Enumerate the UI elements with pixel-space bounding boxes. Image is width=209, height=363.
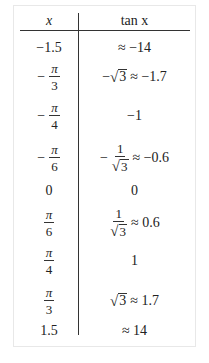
row-5-x: π6 bbox=[20, 203, 78, 243]
row-4-tan: 0 bbox=[79, 181, 190, 201]
row-6-x: π4 bbox=[20, 244, 78, 278]
row-2-x: − π4 bbox=[20, 99, 78, 133]
header-x: x bbox=[20, 12, 78, 30]
row-6-tan: 1 bbox=[79, 244, 190, 278]
row-1-tan: − √3 ≈ −1.7 bbox=[79, 60, 190, 94]
row-0-x: −1.5 bbox=[20, 38, 78, 58]
fraction: π4 bbox=[44, 246, 55, 276]
header-rule bbox=[20, 30, 190, 31]
row-7-tan: √3 ≈ 1.7 bbox=[79, 284, 190, 318]
row-3-tan: − 1√3 ≈ −0.6 bbox=[79, 138, 190, 178]
row-8-x: 1.5 bbox=[20, 321, 78, 341]
row-2-tan: −1 bbox=[79, 99, 190, 133]
fraction: π6 bbox=[44, 208, 55, 238]
fraction: π3 bbox=[44, 286, 55, 316]
row-1-x: − π3 bbox=[20, 60, 78, 94]
row-4-x: 0 bbox=[20, 181, 78, 201]
row-8-tan: ≈ 14 bbox=[79, 321, 190, 341]
row-7-x: π3 bbox=[20, 284, 78, 318]
fraction: π4 bbox=[49, 101, 60, 131]
fraction: 1√3 bbox=[110, 207, 127, 239]
row-5-tan: 1√3 ≈ 0.6 bbox=[79, 203, 190, 243]
fraction: π6 bbox=[49, 143, 60, 173]
row-0-tan: ≈ −14 bbox=[79, 38, 190, 58]
sqrt: √3 bbox=[110, 293, 127, 309]
header-tan-label: tan x bbox=[121, 13, 149, 29]
row-3-x: − π6 bbox=[20, 138, 78, 178]
fraction: π3 bbox=[49, 62, 60, 92]
header-tan: tan x bbox=[79, 12, 190, 30]
fraction: 1√3 bbox=[112, 142, 129, 174]
sqrt: √3 bbox=[110, 69, 127, 85]
